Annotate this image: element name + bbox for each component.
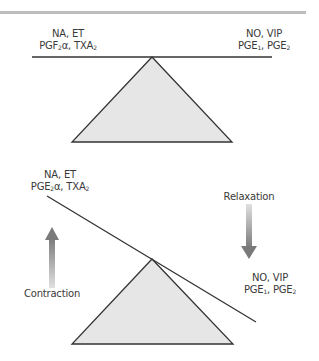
balanced-right-label: NO, VIP PGE1, PGE2 — [222, 28, 306, 54]
tilted-fulcrum — [72, 259, 233, 344]
balanced-left-label: NA, ET PGF2α, TXA2 — [28, 28, 108, 54]
balanced-fulcrum — [72, 57, 232, 142]
contraction-arrow-icon — [45, 227, 59, 288]
relaxation-arrow-icon — [241, 204, 257, 259]
relaxation-label: Relaxation — [218, 191, 280, 203]
tilted-right-label: NO, VIP PGE1, PGE2 — [228, 272, 312, 298]
contraction-label: Contraction — [22, 288, 82, 300]
tilted-left-label: NA, ET PGE2α, TXA2 — [20, 169, 100, 195]
